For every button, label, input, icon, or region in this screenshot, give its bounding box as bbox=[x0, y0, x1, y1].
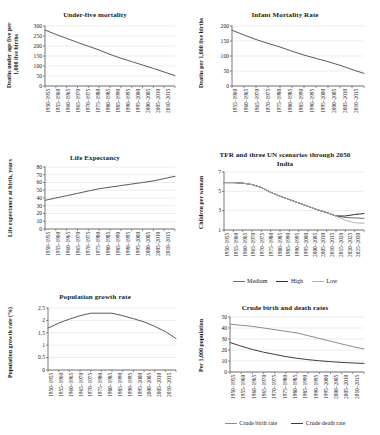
x-tick-label: 1965–1970 bbox=[250, 233, 259, 277]
y-tick-label: 80 bbox=[21, 164, 42, 170]
y-axis-label-tfr-un-scenarios: Children per woman bbox=[198, 171, 207, 233]
y-tick-label: 150 bbox=[21, 53, 42, 59]
x-tick-label: 2020–2025 bbox=[347, 233, 356, 277]
x-tick-label: 1980–1985 bbox=[107, 373, 117, 423]
x-axis-ticks-infant-mortality-rate: 1955–19601960–19651965–19701970–19751975… bbox=[232, 89, 364, 139]
plot-svg-population-growth-rate bbox=[48, 308, 176, 370]
x-tick-label: 2015–2020 bbox=[338, 233, 347, 277]
y-tick-label: 50 bbox=[21, 187, 42, 193]
legend-swatch-icon bbox=[233, 281, 245, 282]
x-tick-label: 2005–2010 bbox=[343, 375, 353, 419]
x-tick-label: 2010–2015 bbox=[354, 375, 364, 419]
chart-title-crude-birth-death-rates: Crude birth and death rates bbox=[190, 304, 380, 312]
x-tick-label: 1975–1980 bbox=[276, 89, 287, 139]
x-tick-label: 2000–2005 bbox=[331, 89, 342, 139]
y-tick-label: 0 bbox=[21, 226, 42, 232]
x-tick-label: 1985–1990 bbox=[115, 232, 125, 282]
x-tick-label: 1990–1995 bbox=[125, 89, 135, 139]
y-tick-label: 50 bbox=[21, 73, 42, 79]
x-tick-label: 1985–1990 bbox=[285, 233, 294, 277]
legend-crude-birth-death-rates: Crude birth rateCrude death rate bbox=[190, 420, 380, 426]
legend-label: Crude birth rate bbox=[239, 420, 277, 426]
plot-area-life-expectancy bbox=[45, 167, 175, 229]
x-tick-label: 2005–2010 bbox=[320, 233, 329, 277]
x-tick-label: 1970–1975 bbox=[85, 232, 95, 282]
chart-title-tfr-un-scenarios: TFR and three UN scenarios through 2050 bbox=[190, 151, 380, 160]
x-axis-ticks-tfr-un-scenarios: 1950–19551955–19601960–19651965–19701970… bbox=[224, 233, 364, 277]
y-tick-label: 100 bbox=[21, 63, 42, 69]
x-tick-label: 1990–1995 bbox=[309, 89, 320, 139]
y-tick-label: 200 bbox=[208, 23, 229, 29]
chart-subtitle-tfr-un-scenarios: India bbox=[190, 160, 380, 169]
y-tick-label: 2 bbox=[24, 317, 45, 323]
plot-area-under-five-mortality bbox=[45, 26, 175, 86]
x-tick-label: 1960–1965 bbox=[251, 375, 261, 419]
x-tick-label: 1970–1975 bbox=[85, 89, 95, 139]
plot-area-crude-birth-death-rates bbox=[230, 317, 364, 372]
y-tick-label: 30 bbox=[206, 336, 227, 342]
y-axis-label-life-expectancy: Life expectancy at birth, years bbox=[7, 165, 16, 237]
x-tick-label: 1995–2000 bbox=[323, 375, 333, 419]
chart-panel-under-five-mortality: Under-five mortality Deaths under age fi… bbox=[0, 0, 190, 145]
x-tick-label: 2005–2010 bbox=[342, 89, 353, 139]
plot-svg-crude-birth-death-rates bbox=[230, 317, 364, 372]
x-tick-label: 1960–1965 bbox=[243, 89, 254, 139]
y-tick-label: 3 bbox=[200, 207, 221, 213]
x-axis-ticks-population-growth-rate: 1950–19551955–19601960–19651965–19701970… bbox=[48, 373, 176, 423]
x-tick-label: 1980–1985 bbox=[292, 375, 302, 419]
y-axis-label-population-growth-rate: Population growth rate (%) bbox=[7, 306, 16, 378]
chart-panel-infant-mortality-rate: Infant Mortality Rate Deaths per 1,000 l… bbox=[190, 0, 380, 145]
legend-tfr-un-scenarios: MediumHighLow bbox=[190, 278, 380, 284]
x-tick-label: 1995–2000 bbox=[135, 232, 145, 282]
chart-panel-tfr-un-scenarios: TFR and three UN scenarios through 2050 … bbox=[190, 145, 380, 290]
figure-panel-grid: Under-five mortality Deaths under age fi… bbox=[0, 0, 380, 435]
plot-area-population-growth-rate bbox=[48, 308, 176, 370]
y-tick-label: 1 bbox=[24, 342, 45, 348]
legend-swatch-icon bbox=[225, 423, 237, 424]
legend-item: Crude death rate bbox=[291, 420, 345, 426]
legend-swatch-icon bbox=[291, 423, 303, 424]
x-tick-label: 1950–1955 bbox=[224, 233, 233, 277]
legend-item: High bbox=[276, 278, 303, 284]
legend-label: Crude death rate bbox=[306, 420, 346, 426]
x-tick-label: 1975–1980 bbox=[268, 233, 277, 277]
x-tick-label: 1960–1965 bbox=[65, 89, 75, 139]
y-tick-label: 200 bbox=[21, 43, 42, 49]
x-tick-label: 2000–2005 bbox=[145, 89, 155, 139]
x-tick-label: 1990–1995 bbox=[294, 233, 303, 277]
legend-label: Medium bbox=[247, 278, 267, 284]
x-tick-label: 1960–1965 bbox=[65, 232, 75, 282]
chart-panel-crude-birth-death-rates: Crude birth and death rates Per 1,000 po… bbox=[190, 290, 380, 435]
x-tick-label: 1965–1970 bbox=[254, 89, 265, 139]
y-tick-label: 40 bbox=[21, 195, 42, 201]
x-tick-label: 1955–1960 bbox=[55, 232, 65, 282]
x-tick-label: 1965–1970 bbox=[75, 232, 85, 282]
chart-title-under-five-mortality: Under-five mortality bbox=[0, 11, 190, 19]
x-tick-label: 1995–2000 bbox=[137, 373, 147, 423]
y-tick-label: 1 bbox=[200, 227, 221, 233]
plot-area-infant-mortality-rate bbox=[232, 26, 364, 86]
x-tick-label: 1980–1985 bbox=[277, 233, 286, 277]
x-tick-label: 1970–1975 bbox=[271, 375, 281, 419]
y-tick-label: 40 bbox=[206, 325, 227, 331]
chart-panel-population-growth-rate: Population growth rate Population growth… bbox=[0, 290, 190, 435]
x-tick-label: 1960–1965 bbox=[68, 373, 78, 423]
y-tick-label: 1.5 bbox=[24, 330, 45, 336]
x-tick-label: 2000–2005 bbox=[333, 375, 343, 419]
x-tick-label: 1975–1980 bbox=[95, 232, 105, 282]
x-tick-label: 1995–2000 bbox=[135, 89, 145, 139]
y-tick-label: 150 bbox=[208, 38, 229, 44]
x-tick-label: 1975–1980 bbox=[97, 373, 107, 423]
x-tick-label: 1965–1970 bbox=[75, 89, 85, 139]
plot-svg-tfr-un-scenarios bbox=[224, 172, 364, 230]
x-tick-label: 2010–2015 bbox=[165, 232, 175, 282]
y-tick-label: 30 bbox=[21, 203, 42, 209]
y-tick-label: 100 bbox=[208, 53, 229, 59]
x-tick-label: 1980–1985 bbox=[105, 232, 115, 282]
y-tick-label: 0 bbox=[21, 83, 42, 89]
x-tick-label: 2010–2015 bbox=[353, 89, 364, 139]
y-tick-label: 50 bbox=[208, 68, 229, 74]
y-tick-label: 0 bbox=[208, 83, 229, 89]
y-tick-label: 5 bbox=[200, 188, 221, 194]
x-axis-ticks-life-expectancy: 1950–19551955–19601960–19651965–19701970… bbox=[45, 232, 175, 282]
